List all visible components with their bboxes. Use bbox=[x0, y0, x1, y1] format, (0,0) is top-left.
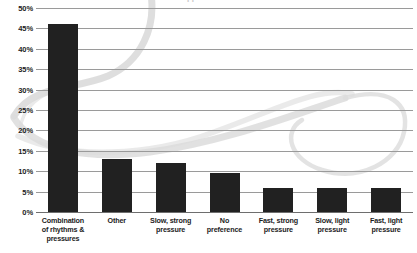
x-axis-category-label: Fast, lightpressure bbox=[359, 216, 413, 234]
x-axis-category-label: Fast, strongpressure bbox=[251, 216, 305, 234]
x-axis-label-line: pressure bbox=[359, 225, 413, 234]
bar bbox=[371, 188, 401, 212]
x-axis-label-line: No bbox=[198, 216, 252, 225]
y-axis-tick-mark bbox=[30, 89, 33, 90]
bar bbox=[317, 188, 347, 212]
x-axis-label-line: Fast, light bbox=[359, 216, 413, 225]
bar bbox=[156, 163, 186, 212]
x-axis-label-line: of rhythms & bbox=[36, 225, 90, 234]
y-axis: 50%45%40%35%30%25%20%15%10%5%0% bbox=[0, 8, 33, 212]
bars-layer bbox=[36, 8, 413, 212]
x-axis-category-label: Combinationof rhythms &pressures bbox=[36, 216, 90, 244]
y-axis-tick-mark bbox=[30, 48, 33, 49]
y-axis-tick-mark bbox=[30, 8, 33, 9]
bar bbox=[48, 24, 78, 212]
y-axis-tick-mark bbox=[30, 130, 33, 131]
x-axis-category-label: Other bbox=[90, 216, 144, 225]
x-axis-label-line: Slow, strong bbox=[144, 216, 198, 225]
bar-chart: clipped title text 50%45%40%35%30%25%20%… bbox=[0, 0, 417, 253]
y-axis-tick-mark bbox=[30, 212, 33, 213]
bar bbox=[263, 188, 293, 212]
x-axis-label-line: pressure bbox=[251, 225, 305, 234]
axis-baseline bbox=[36, 212, 413, 213]
clipped-title-remnant: clipped title text bbox=[0, 0, 417, 4]
y-axis-tick-mark bbox=[30, 191, 33, 192]
x-axis-label-line: preference bbox=[198, 225, 252, 234]
x-axis-label-line: pressure bbox=[305, 225, 359, 234]
y-axis-tick-mark bbox=[30, 150, 33, 151]
x-axis-label-line: Other bbox=[90, 216, 144, 225]
y-axis-tick-mark bbox=[30, 28, 33, 29]
x-axis-label-line: Combination bbox=[36, 216, 90, 225]
x-axis: Combinationof rhythms &pressuresOtherSlo… bbox=[36, 214, 413, 253]
y-axis-tick-mark bbox=[30, 69, 33, 70]
bar bbox=[210, 173, 240, 212]
y-axis-tick-mark bbox=[30, 171, 33, 172]
x-axis-label-line: pressures bbox=[36, 234, 90, 243]
x-axis-label-line: Slow, light bbox=[305, 216, 359, 225]
clipped-title-text: clipped title text bbox=[0, 0, 417, 2]
x-axis-category-label: Slow, lightpressure bbox=[305, 216, 359, 234]
bar bbox=[102, 159, 132, 212]
x-axis-category-label: Nopreference bbox=[198, 216, 252, 234]
y-axis-tick-mark bbox=[30, 110, 33, 111]
x-axis-category-label: Slow, strongpressure bbox=[144, 216, 198, 234]
x-axis-label-line: Fast, strong bbox=[251, 216, 305, 225]
x-axis-label-line: pressure bbox=[144, 225, 198, 234]
